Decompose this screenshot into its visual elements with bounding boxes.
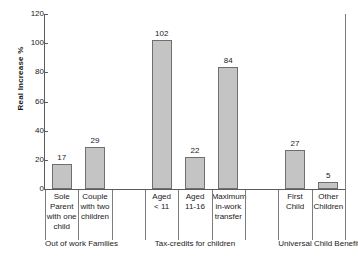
category-label-line: < 11 [145,202,178,212]
bar [285,150,305,189]
y-tick-label: 120 [20,10,44,18]
category-label-line: Aged [178,192,211,202]
y-tick-100: 100 [0,43,44,44]
bar-cell: 17 [45,14,78,189]
category-label-line: transfer [212,212,245,222]
bar-value-label: 29 [91,136,100,145]
bar-cell: 84 [212,14,245,189]
category-label-line: in-work [212,202,245,212]
bar-value-label: 17 [57,153,66,162]
y-tick-80: 80 [0,72,44,73]
category-label-line: Parent [45,202,78,212]
category-label: OtherChildren [312,190,345,238]
y-tick-120: 120 [0,14,44,15]
y-tick-label: 0 [20,185,44,193]
y-tick-20: 20 [0,160,44,161]
y-tick-label: 40 [20,127,44,135]
bar-chart: Real Increase % 020406080100120 17291022… [0,0,358,259]
bar-cell: 29 [78,14,111,189]
cell-separator [278,190,279,240]
bar [218,67,238,190]
category-label-row: SoleParentwith onechildCouplewith twochi… [45,190,345,238]
category-label: Aged< 11 [145,190,178,238]
bar-value-label: 102 [155,29,168,38]
category-label-line: Couple [78,192,111,202]
cell-separator [112,190,113,240]
category-label: Couplewith twochildren [78,190,111,238]
bar-value-label: 22 [191,146,200,155]
category-label: Maximumin-worktransfer [212,190,245,238]
bar [318,182,338,189]
y-tick-label: 100 [20,39,44,47]
bar-cell: 102 [145,14,178,189]
bar [185,157,205,189]
category-label: SoleParentwith onechild [45,190,78,238]
y-tick-label: 80 [20,68,44,76]
cell-separator [312,190,313,240]
category-label-line: Children [312,202,345,212]
cell-separator [145,190,146,240]
cell-separator [178,190,179,240]
plot-area: 17291022284275 [45,14,345,189]
category-label-line: child [45,222,78,232]
category-label-line: children [78,212,111,222]
category-label-line: Child [278,202,311,212]
category-label-line: 11-16 [178,202,211,212]
category-label-line: Maximum [212,192,245,202]
group-label: Tax-credits for children [145,238,245,250]
bar-cell: 5 [312,14,345,189]
cell-separator [245,190,246,240]
bar-value-label: 5 [326,171,330,180]
category-label-line: Aged [145,192,178,202]
cell-separator [345,190,346,240]
bar-cell: 27 [278,14,311,189]
category-label-line: with one [45,212,78,222]
cell-separator [45,190,46,240]
y-tick-label: 60 [20,98,44,106]
group-label: Out of work Families [45,238,112,250]
bar [52,164,72,189]
bar-value-label: 27 [291,139,300,148]
group-label: Universal Child Benefit [278,238,345,250]
bar [152,40,172,189]
category-label: FirstChild [278,190,311,238]
category-label-line: with two [78,202,111,212]
bar-value-label: 84 [224,56,233,65]
y-tick-60: 60 [0,102,44,103]
bar-cell: 22 [178,14,211,189]
y-tick-0: 0 [0,189,44,190]
cell-separator [212,190,213,240]
category-label: Aged11-16 [178,190,211,238]
cell-separator [78,190,79,240]
bar [85,147,105,189]
category-label-line: First [278,192,311,202]
y-tick-label: 20 [20,156,44,164]
y-tick-40: 40 [0,131,44,132]
category-label-line: Other [312,192,345,202]
group-label-row: Out of work FamiliesTax-credits for chil… [45,238,345,252]
category-label-line: Sole [45,192,78,202]
